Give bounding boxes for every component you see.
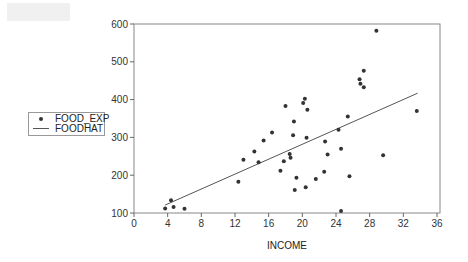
legend: FOOD_EXP FOODHAT bbox=[28, 112, 105, 136]
data-point bbox=[326, 152, 330, 156]
svg-text:300: 300 bbox=[111, 132, 128, 143]
svg-text:100: 100 bbox=[111, 208, 128, 219]
data-point bbox=[337, 128, 341, 132]
svg-text:0: 0 bbox=[131, 218, 137, 229]
svg-text:20: 20 bbox=[297, 218, 309, 229]
data-point bbox=[339, 147, 343, 151]
data-point bbox=[262, 138, 266, 142]
data-point bbox=[362, 69, 366, 73]
svg-text:16: 16 bbox=[263, 218, 275, 229]
data-point bbox=[374, 29, 378, 33]
data-point bbox=[183, 207, 187, 211]
svg-text:12: 12 bbox=[229, 218, 241, 229]
data-point bbox=[288, 152, 292, 156]
data-point bbox=[415, 109, 419, 113]
data-point bbox=[270, 130, 274, 134]
data-point bbox=[381, 153, 385, 157]
line-marker-icon bbox=[33, 128, 49, 129]
svg-text:4: 4 bbox=[165, 218, 171, 229]
data-point bbox=[282, 159, 286, 163]
data-point bbox=[305, 108, 309, 112]
x-axis-title: INCOME bbox=[267, 240, 307, 251]
data-point bbox=[339, 209, 343, 213]
svg-text:8: 8 bbox=[199, 218, 205, 229]
data-point bbox=[347, 174, 351, 178]
food-exp-points bbox=[163, 29, 419, 213]
data-point bbox=[294, 176, 298, 180]
data-point bbox=[236, 180, 240, 184]
data-point bbox=[241, 158, 245, 162]
data-point bbox=[322, 170, 326, 174]
data-point bbox=[278, 169, 282, 173]
svg-text:500: 500 bbox=[111, 56, 128, 67]
foodhat-line bbox=[165, 93, 418, 205]
data-point bbox=[291, 133, 295, 137]
legend-item-foodhat: FOODHAT bbox=[29, 123, 103, 134]
legend-label: FOODHAT bbox=[55, 123, 103, 134]
data-point bbox=[362, 85, 366, 89]
data-point bbox=[252, 149, 256, 153]
data-point bbox=[305, 136, 309, 140]
data-point bbox=[292, 120, 296, 124]
plot-frame bbox=[134, 24, 440, 213]
svg-text:24: 24 bbox=[330, 218, 342, 229]
data-point bbox=[172, 205, 176, 209]
svg-text:36: 36 bbox=[431, 218, 443, 229]
data-point bbox=[169, 198, 173, 202]
data-point bbox=[358, 82, 362, 86]
x-axis: 04812162024283236 bbox=[131, 213, 443, 229]
data-point bbox=[163, 206, 167, 210]
data-point bbox=[293, 188, 297, 192]
svg-text:600: 600 bbox=[111, 19, 128, 30]
data-point bbox=[303, 97, 307, 101]
svg-text:28: 28 bbox=[364, 218, 376, 229]
data-point bbox=[301, 101, 305, 105]
data-point bbox=[304, 185, 308, 189]
data-point bbox=[314, 177, 318, 181]
data-point bbox=[289, 156, 293, 160]
svg-text:32: 32 bbox=[398, 218, 410, 229]
data-point bbox=[257, 160, 261, 164]
y-axis: 100200300400500600 bbox=[111, 19, 134, 219]
data-point bbox=[346, 115, 350, 119]
svg-text:400: 400 bbox=[111, 94, 128, 105]
svg-text:200: 200 bbox=[111, 170, 128, 181]
data-point bbox=[323, 140, 327, 144]
data-point bbox=[284, 104, 288, 108]
dot-marker-icon bbox=[39, 117, 43, 121]
data-point bbox=[358, 77, 362, 81]
